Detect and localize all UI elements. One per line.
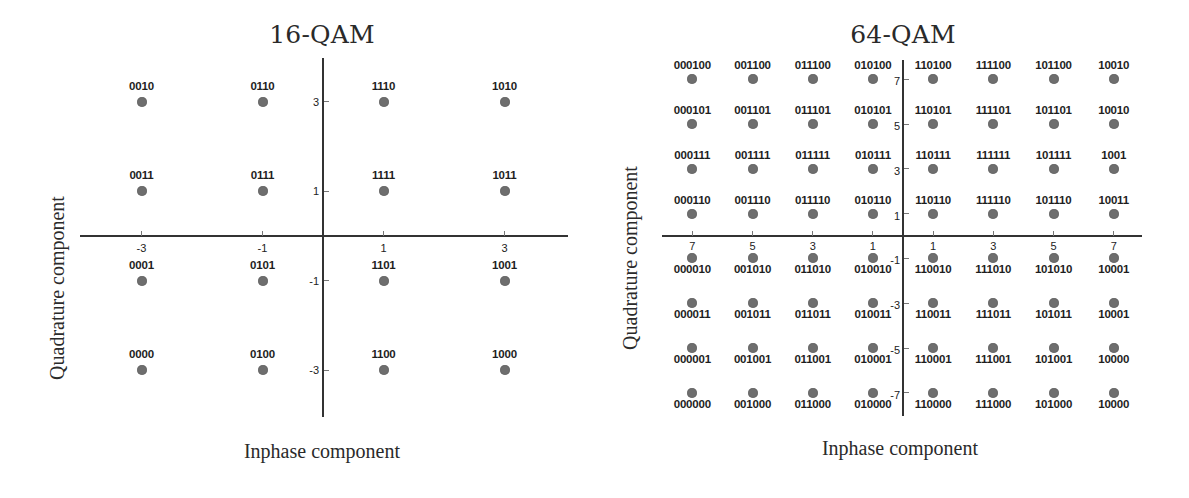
x-tick-label-64qam: 7	[1111, 240, 1117, 252]
x-tick-label-64qam: 3	[990, 240, 996, 252]
constellation-point-64qam	[1109, 164, 1119, 174]
y-axis-label-64qam: Quadrature component	[619, 166, 642, 350]
constellation-point-16qam	[379, 276, 389, 286]
constellation-point-64qam	[928, 119, 938, 129]
constellation-point-64qam	[928, 388, 938, 398]
y-tick-label-16qam: -1	[309, 275, 319, 287]
y-axis-16qam	[322, 58, 324, 417]
constellation-point-16qam	[137, 365, 147, 375]
point-label-64qam: 101111	[1036, 149, 1071, 161]
point-label-64qam: 000111	[674, 149, 710, 161]
constellation-point-64qam	[1109, 209, 1119, 219]
point-label-64qam: 110100	[915, 59, 952, 71]
constellation-point-16qam	[500, 97, 510, 107]
x-tick-label-64qam: 5	[749, 240, 755, 252]
point-label-16qam: 1111	[372, 169, 395, 181]
constellation-point-64qam	[988, 253, 998, 263]
point-label-64qam: 101110	[1036, 194, 1072, 206]
point-label-64qam: 000000	[674, 398, 711, 410]
point-label-64qam: 111111	[976, 149, 1010, 161]
point-label-16qam: 0110	[250, 80, 274, 92]
point-label-64qam: 000110	[674, 194, 711, 206]
constellation-point-64qam	[687, 164, 697, 174]
point-label-64qam: 010000	[854, 398, 891, 410]
x-axis-label-16qam: Inphase component	[244, 440, 400, 463]
point-label-64qam: 101000	[1035, 398, 1072, 410]
y-tick-label-64qam: 7	[894, 75, 900, 87]
constellation-point-16qam	[500, 276, 510, 286]
constellation-point-64qam	[928, 253, 938, 263]
constellation-point-64qam	[748, 74, 758, 84]
point-label-64qam: 10001	[1098, 263, 1129, 275]
constellation-point-64qam	[1049, 388, 1059, 398]
constellation-point-64qam	[808, 343, 818, 353]
constellation-point-64qam	[748, 209, 758, 219]
constellation-point-64qam	[1049, 253, 1059, 263]
constellation-point-64qam	[928, 74, 938, 84]
constellation-point-16qam	[379, 97, 389, 107]
constellation-point-64qam	[868, 209, 878, 219]
point-label-64qam: 011011	[795, 308, 831, 320]
constellation-point-64qam	[687, 298, 697, 308]
constellation-point-64qam	[868, 253, 878, 263]
constellation-point-64qam	[988, 74, 998, 84]
constellation-point-64qam	[808, 253, 818, 263]
point-label-16qam: 0011	[129, 169, 153, 181]
point-label-64qam: 111000	[975, 398, 1011, 410]
point-label-64qam: 111110	[976, 194, 1011, 206]
point-label-64qam: 111101	[976, 104, 1011, 116]
x-tick-16qam	[262, 231, 263, 236]
y-tick-label-16qam: 1	[313, 185, 319, 197]
point-label-16qam: 0111	[251, 169, 275, 181]
point-label-64qam: 011010	[794, 263, 831, 275]
x-tick-label-16qam: -1	[258, 242, 268, 254]
x-tick-label-64qam: 3	[810, 240, 816, 252]
constellation-point-16qam	[500, 365, 510, 375]
x-tick-64qam	[752, 231, 753, 236]
constellation-point-64qam	[748, 164, 758, 174]
constellation-point-64qam	[1049, 119, 1059, 129]
point-label-64qam: 111100	[976, 59, 1011, 71]
point-label-64qam: 000100	[674, 59, 711, 71]
point-label-64qam: 011110	[795, 194, 830, 206]
point-label-64qam: 010010	[854, 263, 891, 275]
point-label-16qam: 1011	[492, 169, 516, 181]
point-label-16qam: 1110	[372, 80, 396, 92]
x-tick-64qam	[872, 231, 873, 236]
constellation-point-16qam	[137, 276, 147, 286]
constellation-point-64qam	[808, 74, 818, 84]
y-tick-64qam	[904, 168, 909, 169]
x-tick-64qam	[812, 231, 813, 236]
constellation-point-64qam	[988, 209, 998, 219]
y-tick-64qam	[904, 79, 909, 80]
y-tick-label-64qam: -5	[890, 344, 900, 356]
y-axis-label-16qam: Quadrature component	[46, 196, 69, 380]
point-label-64qam: 011100	[795, 59, 831, 71]
x-tick-64qam	[1113, 231, 1114, 236]
point-label-64qam: 110001	[915, 353, 952, 365]
y-tick-64qam	[904, 392, 909, 393]
constellation-point-64qam	[1049, 343, 1059, 353]
y-tick-64qam	[904, 258, 909, 259]
x-tick-label-64qam: 5	[1050, 240, 1056, 252]
point-label-64qam: 10010	[1098, 59, 1129, 71]
y-tick-64qam	[904, 213, 909, 214]
point-label-64qam: 010011	[855, 308, 892, 320]
point-label-64qam: 101100	[1035, 59, 1072, 71]
point-label-16qam: 0100	[250, 348, 275, 360]
point-label-64qam: 110011	[915, 308, 951, 320]
x-tick-label-64qam: 1	[930, 240, 936, 252]
constellation-point-64qam	[808, 164, 818, 174]
point-label-64qam: 011111	[795, 149, 830, 161]
point-label-64qam: 10011	[1099, 194, 1129, 206]
point-label-16qam: 1100	[371, 348, 395, 360]
point-label-64qam: 001100	[734, 59, 771, 71]
y-tick-16qam	[324, 370, 329, 371]
point-label-64qam: 000101	[674, 104, 711, 116]
constellation-point-64qam	[868, 343, 878, 353]
point-label-64qam: 110111	[915, 149, 950, 161]
constellation-point-64qam	[808, 119, 818, 129]
constellation-point-64qam	[808, 209, 818, 219]
point-label-64qam: 010110	[855, 194, 892, 206]
point-label-64qam: 001000	[734, 398, 771, 410]
